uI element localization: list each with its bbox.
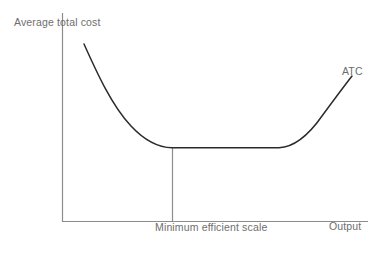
x-axis-label: Output bbox=[329, 220, 361, 233]
atc-curve-label: ATC bbox=[342, 65, 363, 78]
atc-curve bbox=[84, 44, 352, 148]
chart-figure: Average total cost Minimum efficient sca… bbox=[0, 0, 386, 272]
minimum-efficient-scale-label: Minimum efficient scale bbox=[155, 221, 215, 234]
y-axis-label: Average total cost bbox=[14, 16, 60, 29]
